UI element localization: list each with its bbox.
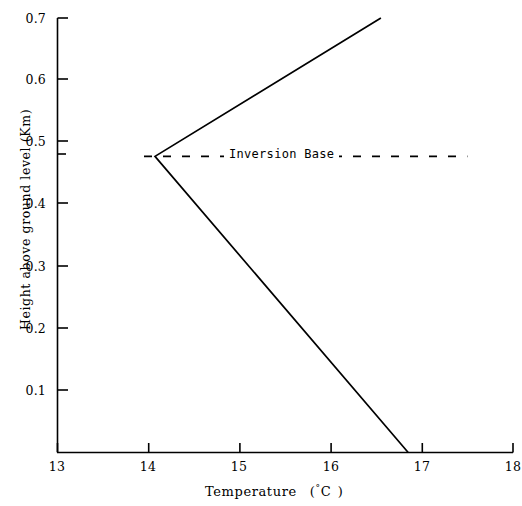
chart-plot-area [0, 0, 522, 506]
inversion-base-annotation: Inversion Base [224, 147, 339, 161]
xtick-label-14: 14 [128, 459, 168, 474]
x-axis-title-paren-close: ) [338, 484, 344, 499]
temperature-profile-line [155, 18, 408, 453]
ytick-label-0.1: 0.1 [6, 383, 46, 398]
x-axis-title-main: Temperature [205, 484, 297, 499]
ytick-label-0.6: 0.6 [6, 72, 46, 87]
xtick-label-18: 18 [493, 459, 522, 474]
xtick-label-15: 15 [219, 459, 259, 474]
inversion-temperature-profile-chart: 0.1 0.2 0.3 0.4 0.5 0.6 0.7 13 14 15 16 … [0, 0, 522, 506]
xtick-label-17: 17 [402, 459, 442, 474]
y-axis-ticks [58, 18, 69, 390]
xtick-label-16: 16 [311, 459, 351, 474]
x-axis-ticks [58, 443, 514, 453]
xtick-label-13: 13 [37, 459, 77, 474]
ytick-label-0.7: 0.7 [6, 11, 46, 26]
x-axis-title-celsius: C [321, 484, 332, 499]
x-axis-title: Temperature (°C ) [205, 483, 343, 499]
y-axis-title: Height above ground level (Km) [18, 109, 33, 330]
